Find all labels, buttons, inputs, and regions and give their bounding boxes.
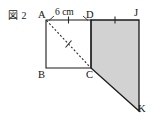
vertex-label-j: J	[134, 8, 138, 19]
vertex-label-c: C	[86, 70, 93, 81]
shaded-quadrilateral-djkc	[91, 20, 139, 111]
vertex-label-d: D	[86, 10, 94, 21]
dimension-label-6cm: 6 cm	[55, 8, 74, 18]
vertex-label-a: A	[38, 10, 46, 21]
vertex-label-k: K	[138, 104, 146, 115]
figure-caption: 図 2	[8, 7, 27, 22]
vertex-label-b: B	[38, 70, 45, 81]
figure-container: 図 2 6 cm A D J B C K	[0, 0, 154, 120]
